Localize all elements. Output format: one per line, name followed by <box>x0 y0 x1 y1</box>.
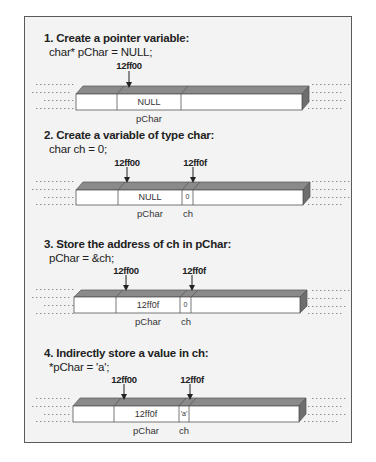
step3-address-pchar: 12ff00 <box>113 265 139 276</box>
memory-bar-step4 <box>30 384 348 422</box>
step2-address-ch: 12ff0f <box>183 157 207 168</box>
memory-bar-step1 <box>32 71 350 110</box>
step2-label-pchar: pChar <box>137 208 163 219</box>
step4-label-ch: ch <box>179 425 189 436</box>
step3-code: pChar = &ch; <box>49 252 114 264</box>
step4-cell-ch-value: 'a' <box>181 410 188 417</box>
step2-address-pchar: 12ff00 <box>114 157 140 168</box>
step3-cell-ch-value: 0 <box>184 301 188 308</box>
step3-address-ch: 12ff0f <box>182 265 206 276</box>
step3-label-pchar: pChar <box>135 316 161 327</box>
step2-cell-ch-value: 0 <box>186 193 190 200</box>
memory-bar-step2 <box>32 167 350 205</box>
step4-label-pchar: pChar <box>133 425 159 436</box>
memory-bar-step3 <box>32 275 350 314</box>
step2-label-ch: ch <box>183 208 193 219</box>
step2-code: char ch = 0; <box>49 143 107 155</box>
step4-title: 4. Indirectly store a value in ch: <box>44 347 208 359</box>
step1-code: char* pChar = NULL; <box>49 46 152 58</box>
step1-address-pchar: 12ff00 <box>116 60 142 71</box>
step3-cell-pchar-value: 12ff0f <box>137 300 159 310</box>
step4-code: *pChar = 'a'; <box>49 361 109 373</box>
step1-title: 1. Create a pointer variable: <box>44 32 189 44</box>
step2-title: 2. Create a variable of type char: <box>44 129 214 141</box>
step4-address-ch: 12ff0f <box>180 374 204 385</box>
step1-label-pchar: pChar <box>136 113 162 124</box>
step4-address-pchar: 12ff00 <box>111 374 137 385</box>
step1-cell-pchar-value: NULL <box>137 97 160 107</box>
step2-cell-pchar-value: NULL <box>138 192 161 202</box>
memory-diagram-graphics <box>0 0 376 462</box>
step4-cell-pchar-value: 12ff0f <box>135 409 157 419</box>
step3-title: 3. Store the address of ch in pChar: <box>44 238 231 250</box>
step3-label-ch: ch <box>181 316 191 327</box>
